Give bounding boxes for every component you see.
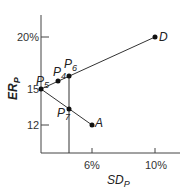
label-p5: P5: [36, 74, 50, 90]
y-tick-label-12: 12: [27, 119, 39, 131]
y-axis-label: ERP: [6, 76, 22, 100]
label-a: A: [94, 116, 103, 130]
label-p6: P6: [64, 57, 77, 73]
x-tick-label-6: 6%: [84, 159, 100, 171]
label-d: D: [159, 30, 168, 44]
point-p6: [67, 74, 72, 79]
point-p7: [67, 107, 72, 112]
diagram: 20% 15 12 6% 10% SDP ERP P5 P4 P6 D P7 A: [0, 0, 189, 192]
point-d: [153, 35, 158, 40]
y-tick-label-20: 20%: [17, 31, 39, 43]
point-a: [90, 123, 95, 128]
x-tick-label-10: 10%: [145, 159, 167, 171]
point-p4: [56, 79, 61, 84]
x-axis-label: SDP: [107, 173, 130, 189]
